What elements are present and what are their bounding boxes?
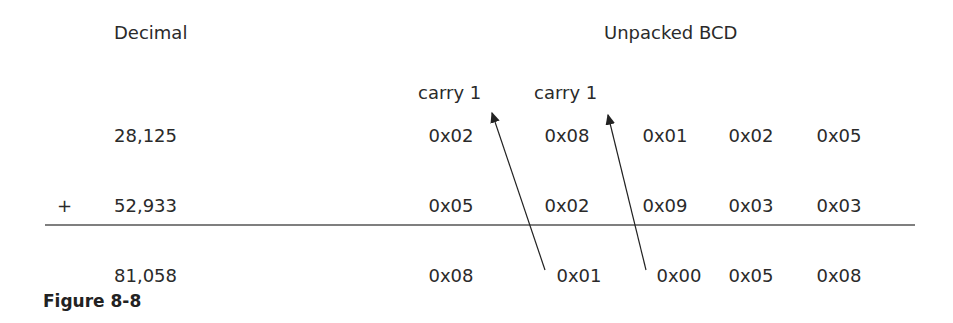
bcd-cell: 0x09 [642, 195, 687, 217]
bcd-cell: 0x05 [816, 125, 861, 147]
bcd-cell: 0x05 [728, 265, 773, 287]
bcd-cell: 0x02 [544, 195, 589, 217]
decimal-addend-2: 52,933 [114, 195, 177, 217]
bcd-cell: 0x03 [816, 195, 861, 217]
bcd-cell: 0x02 [428, 125, 473, 147]
carry-arrow-2 [608, 115, 646, 270]
figure-caption: Figure 8-8 [43, 291, 141, 311]
decimal-addend-1: 28,125 [114, 125, 177, 147]
carry-label-2: carry 1 [534, 82, 597, 104]
bcd-header: Unpacked BCD [604, 22, 737, 44]
decimal-sum: 81,058 [114, 265, 177, 287]
bcd-cell: 0x00 [656, 265, 701, 287]
carry-label-1: carry 1 [418, 82, 481, 104]
bcd-cell: 0x08 [544, 125, 589, 147]
carry-arrow-1 [492, 113, 545, 270]
bcd-cell: 0x05 [428, 195, 473, 217]
bcd-cell: 0x03 [728, 195, 773, 217]
plus-operator: + [57, 195, 72, 217]
decimal-header: Decimal [114, 22, 187, 44]
bcd-cell: 0x01 [556, 265, 601, 287]
bcd-cell: 0x01 [642, 125, 687, 147]
bcd-cell: 0x08 [816, 265, 861, 287]
bcd-cell: 0x02 [728, 125, 773, 147]
bcd-cell: 0x08 [428, 265, 473, 287]
